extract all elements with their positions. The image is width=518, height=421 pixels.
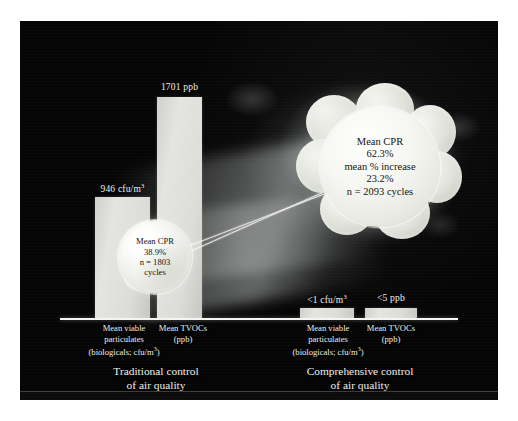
callout-bubble-comprehensive: Mean CPR 62.3% mean % increase 23.2% n =… (320, 107, 440, 227)
figure-slide: 946 cfu/m3 1701 ppb <1 cfu/m3 <5 ppb Mea… (0, 0, 518, 421)
callout-text-comprehensive: Mean CPR 62.3% mean % increase 23.2% n =… (344, 136, 415, 199)
bar-label-traditional-tvocs: 1701 ppb (132, 82, 227, 92)
group-caption-line-2: of air quality (270, 378, 450, 392)
chart-panel: 946 cfu/m3 1701 ppb <1 cfu/m3 <5 ppb Mea… (20, 21, 498, 400)
category-line-2: (ppb) (352, 334, 430, 345)
group-caption-line-2: of air quality (76, 378, 236, 392)
group-caption-comprehensive: Comprehensive control of air quality (270, 364, 450, 392)
category-label-traditional-tvocs: Mean TVOCs (ppb) (144, 323, 222, 344)
baseline-axis (60, 318, 458, 320)
bar-label-traditional-particulates: 946 cfu/m3 (75, 182, 170, 194)
callout-text-traditional: Mean CPR 38.9% n = 1803 cycles (136, 236, 174, 278)
panel-bottom-band (20, 392, 498, 400)
category-line-2: (ppb) (144, 334, 222, 345)
category-line-1: Mean TVOCs (352, 323, 430, 334)
callout-bubble-traditional: Mean CPR 38.9% n = 1803 cycles (118, 220, 192, 294)
bar-comprehensive-particulates (300, 308, 354, 318)
category-line-3: (biologicals; cfu/m3) (72, 344, 176, 357)
group-caption-line-1: Traditional control (76, 364, 236, 378)
group-caption-traditional: Traditional control of air quality (76, 364, 236, 392)
bar-label-comprehensive-tvocs: <5 ppb (346, 293, 436, 303)
bar-comprehensive-tvocs (365, 308, 417, 318)
category-line-1: Mean TVOCs (144, 323, 222, 334)
category-label-comprehensive-tvocs: Mean TVOCs (ppb) (352, 323, 430, 344)
category-line-3: (biologicals; cfu/m3) (276, 344, 380, 357)
group-caption-line-1: Comprehensive control (270, 364, 450, 378)
